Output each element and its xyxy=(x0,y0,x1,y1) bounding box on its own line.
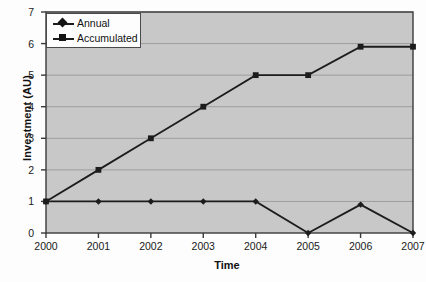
x-tick-label: 2002 xyxy=(129,241,173,252)
y-tick-label: 0 xyxy=(8,228,34,238)
data-point-marker xyxy=(200,104,206,110)
y-tick-label: 7 xyxy=(8,7,34,17)
y-tick-label: 3 xyxy=(8,133,34,143)
x-tick-label: 2006 xyxy=(339,241,383,252)
y-tick-label: 6 xyxy=(8,39,34,49)
y-tick-label: 2 xyxy=(8,165,34,175)
x-tick-label: 2004 xyxy=(234,241,278,252)
data-point-marker xyxy=(305,72,311,78)
legend-item-accumulated: Accumulated xyxy=(47,31,142,47)
diamond-marker-icon xyxy=(58,18,68,28)
square-marker-icon xyxy=(59,34,66,41)
y-tick-label: 5 xyxy=(8,70,34,80)
chart-figure: Investment (AU) Time 0123456720002001200… xyxy=(0,0,426,282)
chart-legend: Annual Accumulated xyxy=(46,13,141,48)
y-tick-label: 1 xyxy=(8,196,34,206)
data-point-marker xyxy=(358,44,364,50)
legend-label-accumulated: Accumulated xyxy=(77,32,138,44)
x-tick-label: 2007 xyxy=(391,241,426,252)
legend-label-annual: Annual xyxy=(77,17,110,29)
data-point-marker xyxy=(96,167,102,173)
data-point-marker xyxy=(148,135,154,141)
x-tick-label: 2005 xyxy=(286,241,330,252)
x-tick-label: 2001 xyxy=(76,241,120,252)
x-tick-label: 2000 xyxy=(24,241,68,252)
data-point-marker xyxy=(410,44,416,50)
data-point-marker xyxy=(253,72,259,78)
y-tick-label: 4 xyxy=(8,102,34,112)
x-tick-label: 2003 xyxy=(181,241,225,252)
legend-item-annual: Annual xyxy=(47,16,142,32)
data-point-marker xyxy=(43,199,49,205)
